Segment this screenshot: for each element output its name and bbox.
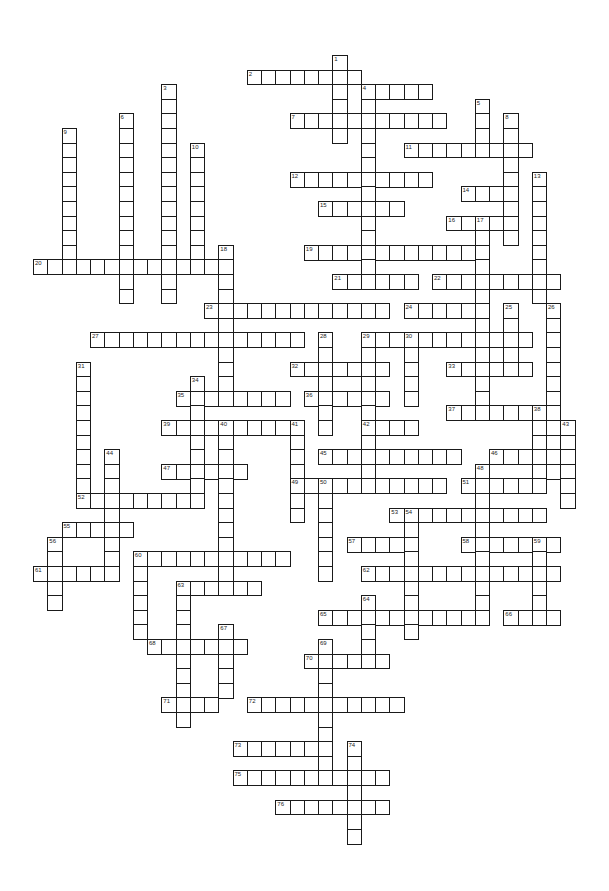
- grid-cell[interactable]: [475, 274, 490, 290]
- grid-cell[interactable]: [503, 566, 518, 582]
- grid-cell[interactable]: [218, 683, 233, 699]
- grid-cell[interactable]: [47, 581, 62, 597]
- grid-cell[interactable]: [461, 332, 476, 348]
- grid-cell[interactable]: [161, 259, 176, 275]
- grid-cell[interactable]: [361, 464, 376, 480]
- grid-cell[interactable]: [332, 128, 347, 144]
- grid-cell[interactable]: 11: [404, 143, 419, 159]
- grid-cell[interactable]: [404, 449, 419, 465]
- grid-cell[interactable]: [375, 201, 390, 217]
- grid-cell[interactable]: 33: [446, 362, 461, 378]
- grid-cell[interactable]: [161, 639, 176, 655]
- grid-cell[interactable]: [532, 551, 547, 567]
- grid-cell[interactable]: [404, 581, 419, 597]
- grid-cell[interactable]: [304, 113, 319, 129]
- grid-cell[interactable]: 64: [361, 595, 376, 611]
- grid-cell[interactable]: 68: [147, 639, 162, 655]
- grid-cell[interactable]: [518, 478, 533, 494]
- grid-cell[interactable]: [404, 566, 419, 582]
- grid-cell[interactable]: [204, 332, 219, 348]
- grid-cell[interactable]: [503, 172, 518, 188]
- grid-cell[interactable]: [361, 654, 376, 670]
- grid-cell[interactable]: [76, 376, 91, 392]
- grid-cell[interactable]: [190, 332, 205, 348]
- grid-cell[interactable]: [347, 245, 362, 261]
- grid-cell[interactable]: [418, 303, 433, 319]
- grid-cell[interactable]: 15: [318, 201, 333, 217]
- grid-cell[interactable]: [261, 420, 276, 436]
- grid-cell[interactable]: [475, 289, 490, 305]
- grid-cell[interactable]: [404, 478, 419, 494]
- grid-cell[interactable]: [218, 274, 233, 290]
- grid-cell[interactable]: [332, 391, 347, 407]
- grid-cell[interactable]: [161, 172, 176, 188]
- grid-cell[interactable]: [347, 800, 362, 816]
- grid-cell[interactable]: [332, 70, 347, 86]
- grid-cell[interactable]: [332, 770, 347, 786]
- grid-cell[interactable]: [218, 668, 233, 684]
- grid-cell[interactable]: [304, 770, 319, 786]
- grid-cell[interactable]: [76, 420, 91, 436]
- grid-cell[interactable]: [404, 245, 419, 261]
- grid-cell[interactable]: [475, 493, 490, 509]
- grid-cell[interactable]: [76, 449, 91, 465]
- grid-cell[interactable]: [318, 493, 333, 509]
- grid-cell[interactable]: [161, 128, 176, 144]
- grid-cell[interactable]: [318, 697, 333, 713]
- grid-cell[interactable]: [518, 143, 533, 159]
- grid-cell[interactable]: [47, 595, 62, 611]
- grid-cell[interactable]: [332, 303, 347, 319]
- grid-cell[interactable]: [304, 362, 319, 378]
- grid-cell[interactable]: 38: [532, 405, 547, 421]
- grid-cell[interactable]: [560, 478, 575, 494]
- grid-cell[interactable]: [290, 508, 305, 524]
- grid-cell[interactable]: [518, 449, 533, 465]
- grid-cell[interactable]: [275, 391, 290, 407]
- grid-cell[interactable]: [332, 449, 347, 465]
- grid-cell[interactable]: [261, 391, 276, 407]
- grid-cell[interactable]: [133, 332, 148, 348]
- grid-cell[interactable]: [404, 551, 419, 567]
- grid-cell[interactable]: [247, 420, 262, 436]
- grid-cell[interactable]: [532, 289, 547, 305]
- grid-cell[interactable]: 21: [332, 274, 347, 290]
- grid-cell[interactable]: [432, 610, 447, 626]
- grid-cell[interactable]: [560, 435, 575, 451]
- grid-cell[interactable]: [133, 493, 148, 509]
- grid-cell[interactable]: [475, 303, 490, 319]
- grid-cell[interactable]: [546, 318, 561, 334]
- grid-cell[interactable]: [290, 303, 305, 319]
- grid-cell[interactable]: [347, 814, 362, 830]
- grid-cell[interactable]: [119, 201, 134, 217]
- grid-cell[interactable]: [404, 420, 419, 436]
- grid-cell[interactable]: [532, 216, 547, 232]
- grid-cell[interactable]: [119, 157, 134, 173]
- grid-cell[interactable]: [389, 332, 404, 348]
- grid-cell[interactable]: [404, 362, 419, 378]
- grid-cell[interactable]: [176, 493, 191, 509]
- grid-cell[interactable]: [560, 493, 575, 509]
- grid-cell[interactable]: [404, 172, 419, 188]
- grid-cell[interactable]: [347, 829, 362, 845]
- grid-cell[interactable]: [190, 464, 205, 480]
- grid-cell[interactable]: [361, 391, 376, 407]
- grid-cell[interactable]: 66: [503, 610, 518, 626]
- grid-cell[interactable]: [347, 770, 362, 786]
- grid-cell[interactable]: [104, 522, 119, 538]
- grid-cell[interactable]: [375, 84, 390, 100]
- grid-cell[interactable]: [503, 332, 518, 348]
- grid-cell[interactable]: [318, 741, 333, 757]
- grid-cell[interactable]: [204, 581, 219, 597]
- grid-cell[interactable]: [361, 128, 376, 144]
- grid-cell[interactable]: [475, 566, 490, 582]
- grid-cell[interactable]: [432, 478, 447, 494]
- grid-cell[interactable]: [375, 478, 390, 494]
- grid-cell[interactable]: [475, 113, 490, 129]
- grid-cell[interactable]: [90, 522, 105, 538]
- grid-cell[interactable]: [432, 566, 447, 582]
- grid-cell[interactable]: [532, 581, 547, 597]
- grid-cell[interactable]: [546, 332, 561, 348]
- grid-cell[interactable]: 73: [233, 741, 248, 757]
- grid-cell[interactable]: [161, 216, 176, 232]
- grid-cell[interactable]: [489, 478, 504, 494]
